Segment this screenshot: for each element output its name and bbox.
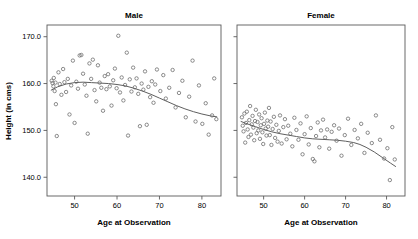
panel-title-female: Female	[307, 11, 335, 20]
x-tick-label-male-3: 80	[198, 201, 206, 210]
x-axis-title-female: Age at Observation	[284, 218, 357, 227]
x-tick-label-female-2: 70	[341, 201, 349, 210]
figure-background	[0, 0, 418, 239]
x-tick-label-female-0: 50	[259, 201, 267, 210]
x-tick-label-male-2: 70	[155, 201, 163, 210]
x-tick-label-male-1: 60	[113, 201, 121, 210]
height-vs-age-scatter-figure: Height (in cms) Male140.0150.0160.0170.0…	[0, 0, 418, 239]
panel-title-male: Male	[125, 11, 143, 20]
y-axis-title: Height (in cms)	[4, 82, 13, 140]
y-tick-label-1: 150.0	[22, 126, 41, 135]
x-axis-title-male: Age at Observation	[97, 218, 170, 227]
x-tick-label-male-0: 50	[70, 201, 78, 210]
y-tick-label-0: 140.0	[22, 173, 41, 182]
x-tick-label-female-1: 60	[300, 201, 308, 210]
y-tick-label-3: 170.0	[22, 32, 41, 41]
x-tick-label-female-3: 80	[382, 201, 390, 210]
y-tick-label-2: 160.0	[22, 79, 41, 88]
